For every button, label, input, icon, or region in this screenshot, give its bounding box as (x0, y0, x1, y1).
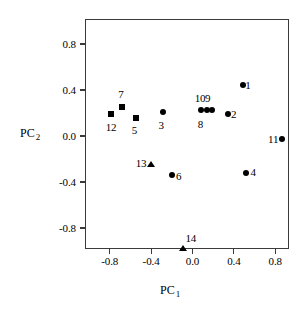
data-point-5 (133, 115, 139, 121)
plot-frame (85, 19, 289, 249)
data-point-label-9: 9 (205, 93, 210, 104)
x-tick-mark (275, 249, 276, 254)
y-axis-title-subscript: 2 (35, 132, 41, 142)
data-point-label-5: 5 (132, 125, 137, 136)
y-tick-mark (80, 89, 85, 90)
x-tick-mark (233, 249, 234, 254)
y-tick-label: -0.4 (36, 177, 76, 188)
data-point-3 (160, 109, 166, 115)
data-point-label-7: 7 (118, 89, 123, 100)
x-tick-label: 0.4 (214, 256, 254, 267)
data-point-label-6: 6 (176, 171, 181, 182)
data-point-12 (108, 111, 114, 117)
x-tick-mark (109, 249, 110, 254)
y-tick-label: 0.0 (36, 131, 76, 142)
data-point-6 (169, 172, 175, 178)
x-tick-label: -0.4 (131, 256, 171, 267)
data-point-label-12: 12 (106, 122, 117, 133)
x-axis-title-subscript: 1 (175, 289, 181, 299)
data-point-14 (179, 245, 187, 251)
y-tick-label: 0.4 (36, 85, 76, 96)
data-point-label-3: 3 (159, 120, 164, 131)
y-tick-mark (80, 135, 85, 136)
y-axis-title: PC2 (20, 127, 40, 143)
data-point-8 (198, 107, 204, 113)
y-axis-title-base: PC (20, 126, 35, 140)
data-point-label-4: 4 (251, 167, 256, 178)
y-tick-label: -0.8 (36, 223, 76, 234)
data-point-2 (225, 111, 231, 117)
data-point-label-8: 8 (198, 119, 203, 130)
x-tick-mark (151, 249, 152, 254)
x-axis-title-base: PC (160, 283, 175, 297)
y-tick-mark (80, 227, 85, 228)
data-point-7 (119, 104, 125, 110)
x-axis-title: PC1 (160, 284, 180, 300)
x-tick-mark (192, 249, 193, 254)
data-point-label-1: 1 (245, 80, 250, 91)
x-tick-label: -0.8 (90, 256, 130, 267)
y-tick-mark (80, 43, 85, 44)
scatter-plot: -0.8-0.40.00.40.8 -0.8-0.40.00.40.8 1234… (0, 0, 305, 310)
data-point-label-10: 10 (195, 93, 206, 104)
y-tick-label: 0.8 (36, 39, 76, 50)
data-point-label-11: 11 (268, 134, 278, 145)
x-tick-label: 0.8 (255, 256, 295, 267)
y-tick-mark (80, 181, 85, 182)
data-point-label-2: 2 (231, 109, 236, 120)
data-point-10 (209, 107, 215, 113)
data-point-label-14: 14 (185, 233, 196, 244)
data-point-label-13: 13 (136, 158, 147, 169)
x-tick-label: 0.0 (173, 256, 213, 267)
data-point-13 (147, 161, 155, 167)
